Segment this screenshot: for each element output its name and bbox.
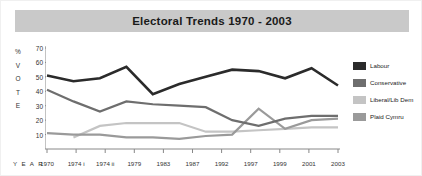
legend-item-label: Conservative [370, 79, 406, 86]
y-axis-tick-label: 30 [36, 102, 43, 109]
y-axis-tick-label: 70 [36, 45, 43, 52]
x-axis-tick-label: 1992 [215, 160, 229, 167]
y-axis-title-char: T [16, 86, 20, 100]
y-axis-tick-labels: 10203040506070 [23, 41, 43, 161]
series-line [47, 67, 338, 94]
y-axis-tick-label: 40 [36, 88, 43, 95]
y-axis-title-char: % [15, 45, 21, 59]
y-axis-tick-label: 60 [36, 59, 43, 66]
legend-swatch-icon [353, 113, 366, 121]
legend-swatch-icon [353, 96, 366, 104]
x-axis-tick-label: 2003 [331, 160, 345, 167]
x-axis-tick-label: 1974 i [68, 160, 85, 167]
legend-item-label: Liberal/Lib Dem [370, 96, 413, 103]
chart-legend: LabourConservativeLiberal/Lib DemPlaid C… [353, 59, 421, 127]
x-axis-tick-label: 1987 [186, 160, 200, 167]
legend-item[interactable]: Plaid Cymru [353, 110, 421, 123]
series-line [47, 109, 338, 139]
x-axis-tick-labels: 19701974 i1974 ii19791983198719921997199… [45, 160, 340, 172]
x-axis-tick-label: 1983 [157, 160, 171, 167]
y-axis-title-char: V [16, 59, 20, 73]
legend-item[interactable]: Conservative [353, 76, 421, 89]
series-line [47, 90, 338, 126]
y-axis-title-char: E [16, 99, 20, 113]
legend-item[interactable]: Liberal/Lib Dem [353, 93, 421, 106]
x-axis-tick-label: 1979 [127, 160, 141, 167]
legend-swatch-icon [353, 62, 366, 70]
y-axis-title-char: O [15, 72, 20, 86]
y-axis-tick-label: 20 [36, 117, 43, 124]
x-axis-tick-label: 1999 [273, 160, 287, 167]
x-axis-tick-label: 1970 [40, 160, 54, 167]
y-axis-tick-label: 50 [36, 73, 43, 80]
chart-figure: Electoral Trends 1970 - 2003 %VOTE 10203… [0, 0, 422, 176]
plot-area [45, 46, 340, 157]
legend-item[interactable]: Labour [353, 59, 421, 72]
x-axis-tick-label: 1997 [244, 160, 258, 167]
legend-item-label: Plaid Cymru [370, 113, 404, 120]
x-axis-tick-label: 1974 ii [96, 160, 114, 167]
legend-swatch-icon [353, 79, 366, 87]
chart-title-banner: Electoral Trends 1970 - 2003 [15, 10, 409, 32]
series-canvas [45, 46, 340, 157]
page-title: Electoral Trends 1970 - 2003 [132, 15, 292, 27]
y-axis-tick-label: 10 [36, 131, 43, 138]
legend-item-label: Labour [370, 62, 389, 69]
x-axis-tick-label: 2001 [302, 160, 316, 167]
